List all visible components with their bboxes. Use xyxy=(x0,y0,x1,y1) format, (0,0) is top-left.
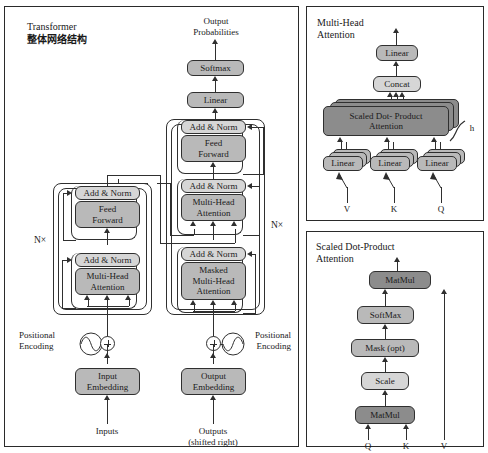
line-encoder-residual-ff-v xyxy=(63,193,64,240)
line-concat-to-linear xyxy=(396,66,397,76)
arrow-v-into-linear xyxy=(331,171,355,189)
outputs-label: Outputs (shifted right) xyxy=(178,426,248,447)
line-mask-to-softmax xyxy=(385,329,386,339)
multi-head-attention-panel: Multi-Head Attention Linear Concat Scale… xyxy=(306,6,484,221)
decoder-add-norm-bottom: Add & Norm xyxy=(181,247,246,261)
line-decoder-residual-mha-b xyxy=(243,235,260,236)
line-mha-output xyxy=(396,31,397,45)
line-decoder-residual-ff-b xyxy=(243,174,264,175)
line-cross-attn-riser1 xyxy=(170,183,171,235)
output-embedding-block: Output Embedding xyxy=(181,368,246,395)
diagram-title-en: Transformer xyxy=(27,21,77,33)
line-encoder-fanout xyxy=(87,306,129,307)
line-sdpa-in-q xyxy=(368,429,369,440)
sdp-attention-front-card: Scaled Dot- Product Attention xyxy=(323,106,449,136)
softmax-block: Softmax xyxy=(187,60,244,76)
arrowhead-sdpa-scale xyxy=(382,390,388,395)
transformer-architecture-panel: Transformer 整体网络结构 Output Probabilities … xyxy=(4,6,299,447)
line-encoder-out-h2 xyxy=(118,183,148,184)
line-masked-fanout xyxy=(193,311,235,312)
output-probabilities-label: Output Probabilities xyxy=(171,16,261,37)
line-encoder-out-h1 xyxy=(107,175,148,176)
line-softmax-to-top xyxy=(215,42,216,60)
line-scale-to-mask xyxy=(385,362,386,372)
arrowhead-plus-right xyxy=(210,353,216,358)
line-encoder-out-riser xyxy=(107,175,108,187)
sdpa-mask: Mask (opt) xyxy=(351,339,419,357)
sdpa-input-q-label: Q xyxy=(358,441,378,452)
sdpa-matmul-bottom: MatMul xyxy=(355,406,415,424)
sdpa-input-k-label: K xyxy=(396,441,416,452)
line-softmax-to-matmul xyxy=(385,294,386,306)
arrowhead-plus-left xyxy=(104,353,110,358)
mha-input-k-label: K xyxy=(384,204,404,215)
arrowhead-to-output-probabilities xyxy=(212,39,218,44)
line-linear-to-softmax xyxy=(215,81,216,92)
decoder-multi-head-attention: Multi-Head Attention xyxy=(181,194,246,221)
mha-linear-v: Linear xyxy=(323,156,363,171)
arrowhead-input-embedding xyxy=(104,395,110,400)
line-cross-attn-h1 xyxy=(170,235,194,236)
line-to-decoder-ff xyxy=(213,167,214,179)
mha-linear-q: Linear xyxy=(417,156,457,171)
arrowhead-mha-output xyxy=(393,28,399,33)
encoder-add-norm-bottom: Add & Norm xyxy=(75,253,140,267)
line-outputs-to-embedding xyxy=(213,400,214,424)
line-input-v xyxy=(347,187,348,203)
sdpa-input-v-label: V xyxy=(434,441,454,452)
input-embedding-block: Input Embedding xyxy=(75,368,140,395)
arrowhead-encoder-ff xyxy=(104,228,110,233)
encoder-nx-label: N× xyxy=(34,235,46,245)
sine-wave-icon-right xyxy=(221,332,245,356)
arrowhead-sdpa-softmax xyxy=(382,324,388,329)
sdpa-panel-title: Scaled Dot-Product Attention xyxy=(316,241,395,265)
arrowhead-sdpa-output xyxy=(394,257,400,262)
mha-linear-k: Linear xyxy=(370,156,410,171)
inputs-label: Inputs xyxy=(77,426,137,437)
line-to-encoder-ff xyxy=(107,233,108,245)
arrowhead-sdpa-mask xyxy=(382,357,388,362)
diagram-title-cn: 整体网络结构 xyxy=(27,34,87,46)
mha-linear-top: Linear xyxy=(376,45,418,61)
mha-input-q-label: Q xyxy=(431,204,451,215)
line-encoder-out-v2 xyxy=(118,179,119,184)
decoder-masked-attention: Masked Multi-Head Attention xyxy=(181,262,246,300)
arrowhead-output-embedding xyxy=(210,395,216,400)
line-decoder-residual-masked-b xyxy=(243,313,256,314)
line-decoder-residual-ff-v xyxy=(263,127,264,175)
arrowhead-linear xyxy=(212,108,218,113)
mha-panel-title: Multi-Head Attention xyxy=(317,17,364,41)
line-sdpa-in-k xyxy=(406,429,407,440)
heads-count-label: h xyxy=(466,123,478,134)
line-inputs-to-embedding xyxy=(107,400,108,424)
arrowhead-mha-linear-top xyxy=(393,61,399,66)
sdpa-softmax: SoftMax xyxy=(357,306,414,324)
line-cross-attn-top2 xyxy=(147,175,161,176)
line-input-k xyxy=(394,187,395,203)
line-decoder-residual-ff-h xyxy=(251,127,263,128)
line-input-q xyxy=(441,187,442,203)
sdpa-matmul-top: MatMul xyxy=(369,271,431,289)
arrowhead-decoder-mha-in1 xyxy=(190,221,196,226)
linear-block: Linear xyxy=(187,92,244,108)
mha-input-v-label: V xyxy=(337,204,357,215)
line-decoder-residual-mha-h xyxy=(251,186,259,187)
line-encoder-residual-mha-b xyxy=(62,308,76,309)
arrowhead-softmax xyxy=(212,76,218,81)
line-cross-attn-h2 xyxy=(160,243,235,244)
line-decoder-residual-mha-v xyxy=(259,186,260,236)
line-encoder-residual-ff-b xyxy=(63,240,76,241)
decoder-feed-forward: Feed Forward xyxy=(181,135,246,162)
arrow-q-into-linear xyxy=(425,171,449,189)
line-decoder-residual-masked-v xyxy=(255,254,256,314)
encoder-add-norm-top: Add & Norm xyxy=(75,186,140,200)
arrow-k-into-linear xyxy=(378,171,402,189)
line-decoder-mha-center-in xyxy=(213,226,214,240)
decoder-nx-label: N× xyxy=(271,220,283,230)
positional-encoding-left-label: Positional Encoding xyxy=(19,330,75,351)
encoder-multi-head-attention: Multi-Head Attention xyxy=(75,268,140,295)
decoder-add-norm-mid: Add & Norm xyxy=(181,179,246,193)
mha-concat: Concat xyxy=(373,76,421,92)
arrowhead-decoder-mha-in3 xyxy=(231,221,237,226)
encoder-feed-forward: Feed Forward xyxy=(75,201,140,228)
